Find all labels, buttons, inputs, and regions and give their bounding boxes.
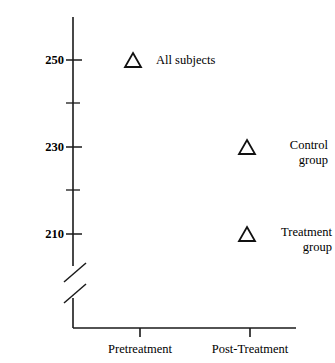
series-label-all-subjects-line1: All subjects: [156, 53, 215, 67]
y-tick-label-230: 230: [22, 141, 64, 153]
series-label-control-group: Control group: [266, 138, 328, 167]
series-label-treatment-line1: Treatment: [262, 225, 332, 240]
series-label-treatment-group: Treatment group: [262, 225, 332, 254]
series-label-all-subjects: All subjects: [156, 53, 215, 68]
data-point-control-group[interactable]: [239, 140, 255, 154]
data-point-all-subjects[interactable]: [125, 53, 141, 67]
y-tick-label-250: 250: [22, 54, 64, 66]
series-label-control-line1: Control: [266, 138, 328, 153]
axis-break-slash-upper-icon: [64, 263, 86, 282]
series-label-control-line2: group: [266, 153, 328, 168]
chart-figure: Total Plasma Cholesterol (mg/dL) 250 230…: [0, 0, 335, 363]
series-label-treatment-line2: group: [262, 240, 332, 255]
x-tick-label-pretreatment: Pretreatment: [90, 342, 190, 356]
y-tick-label-210: 210: [22, 228, 64, 240]
axis-break-slash-lower-icon: [64, 284, 86, 303]
data-point-treatment-group[interactable]: [239, 227, 255, 241]
x-tick-label-post-treatment: Post-Treatment: [198, 342, 302, 356]
